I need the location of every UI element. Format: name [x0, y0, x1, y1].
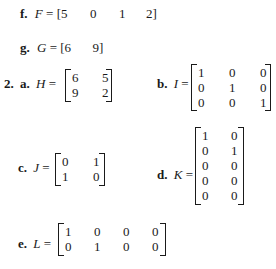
matrix-h: 6 5 9 2	[65, 69, 112, 102]
item-label: c.	[18, 160, 27, 175]
matrix-name: F	[35, 6, 43, 21]
matrix-cell: 0	[152, 239, 164, 254]
matrix-cell: 1	[93, 154, 105, 169]
matrix-cell: 0	[123, 224, 152, 239]
matrix-cell: 0	[62, 154, 93, 169]
item-2a-label: 2. a. H =	[4, 76, 56, 92]
matrix-i: 1 0 0 0 1 0 0 0 1	[191, 64, 271, 111]
matrix-cell: 0	[231, 173, 243, 188]
matrix-cell: 0	[229, 65, 260, 80]
equals-sign: =	[50, 40, 57, 55]
matrix-cell: 0	[90, 6, 119, 22]
matrix-cell: 1	[260, 95, 272, 110]
matrix-cell: 0	[123, 239, 152, 254]
matrix-cell: 5	[61, 6, 90, 22]
problem-number: 2.	[4, 76, 14, 91]
matrix-name: I	[174, 76, 178, 91]
item-label: g.	[20, 40, 30, 55]
matrix-cell: 0	[94, 224, 123, 239]
matrix-cell: 0	[198, 95, 229, 110]
matrix-cell: 0	[231, 158, 243, 173]
equals-sign: =	[181, 76, 188, 91]
matrix-k: 1 0 0 1 0 0 0 0 0 0	[195, 127, 244, 205]
matrix-cell: 2	[102, 85, 114, 100]
matrix-cell: 1	[202, 128, 231, 143]
matrix-cell: 1	[94, 239, 123, 254]
item-label: b.	[157, 76, 167, 91]
close-bracket: ]	[152, 6, 156, 21]
matrix-name: K	[174, 167, 183, 182]
matrix-cell: 0	[152, 224, 164, 239]
matrix-cell: 0	[202, 173, 231, 188]
matrix-cell: 0	[231, 188, 243, 203]
matrix-cell: 0	[93, 169, 105, 184]
matrix-cell: 0	[65, 239, 94, 254]
item-label: f.	[20, 6, 28, 21]
matrix-cell: 1	[231, 143, 243, 158]
equals-sign: =	[42, 160, 49, 175]
matrix-cell: 1	[65, 224, 94, 239]
matrix-cell: 0	[231, 128, 243, 143]
matrix-j: 0 1 1 0	[55, 153, 105, 186]
matrix-cell: 5	[102, 70, 114, 85]
matrix-cell: 1	[229, 80, 260, 95]
row-vector: 5012	[61, 6, 153, 22]
matrix-cell: 0	[202, 143, 231, 158]
item-2b-label: b. I =	[157, 76, 189, 92]
matrix-name: H	[36, 76, 45, 91]
matrix-cell: 0	[198, 80, 229, 95]
matrix-cell: 0	[229, 95, 260, 110]
equals-sign: =	[46, 6, 53, 21]
item-label: d.	[157, 167, 167, 182]
matrix-cell: 1	[198, 65, 229, 80]
matrix-name: J	[33, 160, 39, 175]
matrix-cell: 6	[72, 70, 102, 85]
equals-sign: =	[49, 76, 56, 91]
item-2c-label: c. J =	[18, 160, 50, 176]
matrix-cell: 9	[72, 85, 102, 100]
row-vector: 69	[65, 40, 100, 56]
item-2e-label: e. L =	[18, 236, 51, 252]
equals-sign: =	[44, 236, 51, 251]
matrix-cell: 1	[62, 169, 93, 184]
matrix-cell: 0	[260, 80, 272, 95]
matrix-l: 1 0 0 0 0 1 0 0	[58, 223, 166, 256]
close-bracket: ]	[99, 40, 103, 55]
item-f: f. F = [5012]	[20, 6, 157, 22]
matrix-cell: 0	[260, 65, 272, 80]
item-label: e.	[18, 236, 27, 251]
matrix-cell: 0	[202, 188, 231, 203]
matrix-cell: 0	[202, 158, 231, 173]
equals-sign: =	[186, 167, 193, 182]
item-2d-label: d. K =	[157, 167, 193, 183]
matrix-cell: 6	[65, 40, 93, 56]
item-g: g. G = [69]	[20, 40, 103, 56]
matrix-name: L	[33, 236, 40, 251]
item-label: a.	[20, 76, 30, 91]
matrix-cell: 1	[119, 6, 146, 22]
matrix-name: G	[37, 40, 46, 55]
